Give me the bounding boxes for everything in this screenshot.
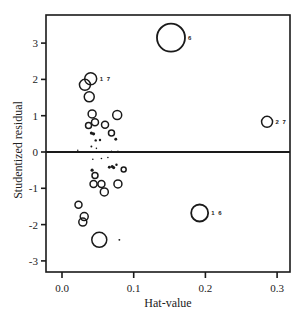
data-point bbox=[79, 218, 87, 226]
data-point bbox=[84, 92, 94, 102]
x-axis-ticks: 0.00.10.20.3 bbox=[55, 272, 284, 294]
y-tick-label: 2 bbox=[33, 73, 39, 85]
data-point bbox=[262, 116, 273, 127]
data-point bbox=[118, 239, 120, 241]
x-tick-label: 0.3 bbox=[270, 282, 284, 294]
data-point bbox=[108, 130, 114, 136]
point-label: 1 7 bbox=[100, 76, 111, 82]
x-axis-title: Hat-value bbox=[144, 296, 191, 310]
data-point bbox=[86, 123, 92, 129]
y-axis-title: Studentized residual bbox=[11, 101, 25, 199]
data-point bbox=[92, 232, 107, 247]
point-label: 2 7 bbox=[276, 119, 287, 125]
y-tick-label: -3 bbox=[29, 255, 39, 267]
x-tick-label: 0.1 bbox=[127, 282, 141, 294]
data-point bbox=[100, 188, 108, 196]
data-point bbox=[98, 180, 105, 187]
data-point bbox=[115, 164, 117, 166]
data-point bbox=[88, 110, 96, 118]
data-point bbox=[157, 24, 185, 52]
scatter-plot: -3-2-10123 0.00.10.20.3 62 71 61 7 Hat-v… bbox=[0, 0, 303, 316]
data-point bbox=[75, 201, 82, 208]
data-point bbox=[101, 158, 103, 160]
y-axis-ticks: -3-2-10123 bbox=[29, 37, 46, 267]
data-point bbox=[77, 149, 78, 150]
data-point bbox=[80, 213, 88, 221]
data-point bbox=[94, 139, 96, 141]
data-point bbox=[90, 146, 92, 148]
point-label: 1 6 bbox=[211, 210, 222, 216]
data-point bbox=[92, 173, 98, 179]
y-tick-label: 0 bbox=[33, 146, 39, 158]
data-point bbox=[191, 204, 208, 221]
data-point bbox=[114, 180, 122, 188]
data-point bbox=[107, 157, 109, 159]
x-tick-label: 0.0 bbox=[55, 282, 69, 294]
data-point bbox=[117, 151, 118, 152]
data-points: 62 71 61 7 bbox=[75, 24, 287, 248]
data-point bbox=[108, 166, 111, 169]
data-point bbox=[102, 121, 109, 128]
y-tick-label: 3 bbox=[33, 37, 39, 49]
point-label: 6 bbox=[188, 35, 192, 41]
data-point bbox=[113, 110, 122, 119]
y-tick-label: -1 bbox=[29, 182, 38, 194]
data-point bbox=[91, 169, 94, 172]
data-point bbox=[96, 148, 98, 150]
plot-frame bbox=[46, 15, 290, 272]
data-point bbox=[114, 138, 117, 141]
data-point bbox=[92, 158, 94, 160]
data-point bbox=[92, 132, 95, 135]
data-point bbox=[90, 180, 97, 187]
data-point bbox=[99, 139, 101, 141]
data-point bbox=[111, 151, 112, 152]
data-point bbox=[91, 119, 98, 126]
data-point bbox=[112, 166, 115, 169]
x-tick-label: 0.2 bbox=[199, 282, 213, 294]
y-tick-label: -2 bbox=[29, 219, 38, 231]
data-point bbox=[121, 167, 126, 172]
y-tick-label: 1 bbox=[33, 110, 39, 122]
